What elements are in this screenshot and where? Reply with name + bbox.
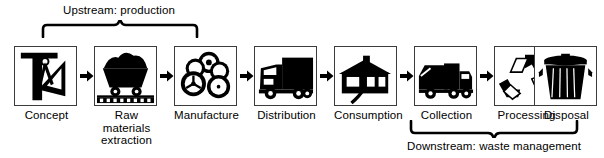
- upstream-label: Upstream: production: [63, 4, 175, 17]
- stage-disposal-label: Disposal: [534, 109, 599, 122]
- upstream-annotation: Upstream: production: [0, 0, 300, 46]
- house-icon: [335, 47, 396, 105]
- stage-collection-label: Collection: [414, 109, 479, 122]
- stage-consumption-label: Consumption: [334, 109, 399, 122]
- stage-distribution: Distribution: [254, 46, 319, 122]
- stage-consumption: Consumption: [334, 46, 399, 122]
- stage-raw-materials-extraction-box: [94, 46, 157, 106]
- flow-arrow-5: [400, 70, 414, 82]
- mine-cart-icon: [95, 47, 156, 105]
- flow-arrow-3: [240, 70, 254, 82]
- stage-raw-materials-extraction-label: Raw materials extraction: [94, 109, 159, 147]
- stage-concept-box: [14, 46, 77, 106]
- trash-can-icon: [535, 47, 596, 105]
- stage-distribution-box: [254, 46, 317, 106]
- tires-icon: [175, 47, 236, 105]
- garbage-truck-icon: [415, 47, 476, 105]
- stage-consumption-box: [334, 46, 397, 106]
- stage-concept-label: Concept: [14, 109, 79, 122]
- stage-raw-materials-extraction: Raw materials extraction: [94, 46, 159, 147]
- downstream-label: Downstream: waste management: [407, 140, 581, 153]
- stage-collection-box: [414, 46, 477, 106]
- stage-manufacture-box: [174, 46, 237, 106]
- stage-disposal-box: [534, 46, 597, 106]
- delivery-truck-icon: [255, 47, 316, 105]
- stage-distribution-label: Distribution: [254, 109, 319, 122]
- flow-arrow-4: [320, 70, 334, 82]
- stage-concept: Concept: [14, 46, 79, 122]
- stage-manufacture-label: Manufacture: [174, 109, 239, 122]
- label-line-3: extraction: [101, 134, 152, 146]
- label-line-2: materials: [103, 122, 151, 134]
- flow-arrow-2: [160, 70, 174, 82]
- stage-manufacture: Manufacture: [174, 46, 239, 122]
- stage-disposal: Disposal: [534, 46, 599, 122]
- lifecycle-diagram: Upstream: production Downstream: waste m…: [0, 0, 604, 158]
- downstream-annotation: Downstream: waste management: [390, 116, 604, 158]
- upstream-bracket-icon: [40, 20, 200, 38]
- drafting-tools-icon: [15, 47, 76, 105]
- flow-arrow-1: [80, 70, 94, 82]
- label-line-1: Raw: [115, 109, 138, 121]
- downstream-bracket-icon: [408, 120, 580, 138]
- stage-collection: Collection: [414, 46, 479, 122]
- flow-arrow-6: [480, 70, 494, 82]
